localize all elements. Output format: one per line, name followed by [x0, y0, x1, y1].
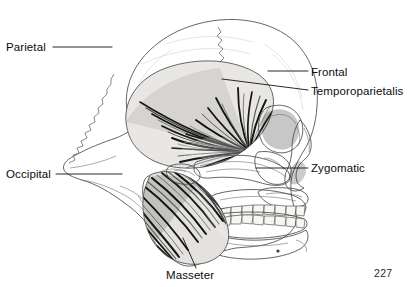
nasal-aperture [289, 161, 306, 184]
label-frontal: Frontal [311, 66, 348, 78]
label-occipital: Occipital [6, 168, 51, 180]
label-temporoparietalis: Temporoparietalis [311, 85, 404, 97]
anatomical-figure: Parietal Frontal Temporoparietalis Occip… [0, 0, 416, 287]
lambdoid-suture [69, 74, 116, 168]
page-number: 227 [374, 267, 392, 279]
label-parietal: Parietal [6, 41, 46, 53]
label-zygomatic: Zygomatic [311, 162, 365, 174]
mental-foramen [276, 249, 279, 252]
label-masseter: Masseter [166, 269, 214, 281]
